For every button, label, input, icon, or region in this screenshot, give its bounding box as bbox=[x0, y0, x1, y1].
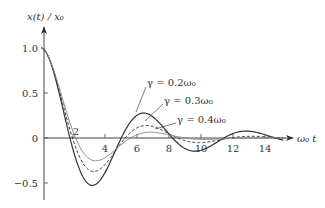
x-ticks: 2468101214 bbox=[73, 126, 272, 154]
x-tick-label: 14 bbox=[259, 143, 272, 154]
leader-04 bbox=[155, 123, 176, 129]
y-ticks: 1.00.50−0.5 bbox=[14, 43, 48, 189]
annotation-gamma-03: γ = 0.3ω₀ bbox=[164, 95, 213, 106]
x-axis-label: ω₀ t bbox=[297, 133, 317, 144]
curves bbox=[41, 48, 283, 185]
annotation-gamma-02: γ = 0.2ω₀ bbox=[147, 77, 196, 88]
x-tick-label: 6 bbox=[134, 143, 140, 154]
x-tick-label: 8 bbox=[166, 143, 172, 154]
y-tick-label: 0 bbox=[32, 133, 38, 144]
y-tick-label: 0.5 bbox=[22, 88, 38, 99]
x-tick-label: 2 bbox=[73, 126, 79, 137]
annotations: γ = 0.2ω₀ γ = 0.3ω₀ γ = 0.4ω₀ bbox=[136, 77, 226, 129]
y-tick-label: 1.0 bbox=[22, 43, 38, 54]
y-tick-label: −0.5 bbox=[14, 178, 38, 189]
x-tick-label: 12 bbox=[227, 143, 240, 154]
y-axis-label: x(t) / x₀ bbox=[27, 11, 64, 22]
curve-02 bbox=[41, 48, 283, 185]
curve-03 bbox=[41, 48, 283, 172]
x-tick-label: 4 bbox=[102, 143, 108, 154]
damped-oscillation-chart: x(t) / x₀ ω₀ t 1.00.50−0.5 2468101214 γ … bbox=[0, 0, 325, 208]
leader-02 bbox=[136, 87, 146, 112]
annotation-gamma-04: γ = 0.4ω₀ bbox=[177, 114, 226, 125]
